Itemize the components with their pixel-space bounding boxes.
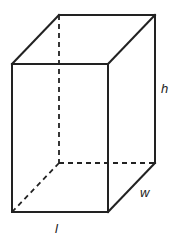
width-label: w bbox=[140, 185, 151, 200]
hidden-bottom-left-edge bbox=[12, 163, 59, 212]
top-right-edge bbox=[108, 15, 155, 64]
rectangular-prism-diagram: h w l bbox=[0, 0, 177, 237]
top-left-edge bbox=[12, 15, 59, 64]
front-face bbox=[12, 64, 108, 212]
height-label: h bbox=[161, 81, 168, 96]
length-label: l bbox=[55, 221, 59, 236]
